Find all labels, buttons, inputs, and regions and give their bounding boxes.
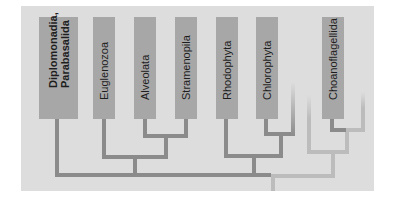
taxon-box-diplomonadia-parabasalida: Diplomonadia, Parabasalida bbox=[39, 17, 78, 119]
branch-opisthokont-stem bbox=[331, 150, 335, 178]
taxon-label: Diplomonadia, Parabasalida bbox=[47, 12, 71, 88]
branch-rhodophyta bbox=[224, 119, 228, 158]
branch-left-clade-stem bbox=[133, 155, 137, 177]
taxon-label: Choanoflagellida bbox=[327, 18, 339, 100]
taxon-label: Chlorophyta bbox=[261, 41, 273, 100]
branch-choanoflagellida-node-dark bbox=[330, 128, 346, 132]
taxon-label: Stramenopila bbox=[180, 35, 192, 100]
branch-root-horizontal bbox=[55, 173, 271, 177]
taxon-label-line2: Parabasalida bbox=[59, 12, 71, 88]
taxon-box-rhodophyta: Rhodophyta bbox=[216, 17, 238, 119]
branch-root-stem bbox=[271, 174, 275, 191]
branch-diplomonadia bbox=[55, 119, 59, 177]
taxon-label-line1: Diplomonadia, bbox=[47, 12, 59, 88]
branch-chlorophyta-stem bbox=[279, 132, 283, 158]
branch-opisthokont-node bbox=[307, 150, 348, 154]
branch-unlabeled-light bbox=[307, 95, 311, 154]
taxon-box-alveolata: Alveolata bbox=[134, 17, 156, 119]
taxon-label: Alveolata bbox=[139, 55, 151, 100]
branch-chlorophyta-sister-faded bbox=[291, 82, 295, 136]
branch-euglenozoa bbox=[102, 119, 106, 159]
taxon-label: Euglenozoa bbox=[98, 42, 110, 100]
branch-plant-stem bbox=[252, 154, 256, 177]
branch-choanoflagellida-sister-light bbox=[361, 92, 365, 132]
branch-light-horizontal bbox=[271, 174, 334, 178]
taxon-box-euglenozoa: Euglenozoa bbox=[93, 17, 115, 119]
taxon-label: Rhodophyta bbox=[221, 41, 233, 100]
taxon-box-chlorophyta: Chlorophyta bbox=[256, 17, 278, 119]
taxon-box-choanoflagellida: Choanoflagellida bbox=[322, 17, 344, 119]
branch-alveolata-stramenopila-stem bbox=[164, 134, 168, 159]
taxon-box-stramenopila: Stramenopila bbox=[175, 17, 197, 119]
